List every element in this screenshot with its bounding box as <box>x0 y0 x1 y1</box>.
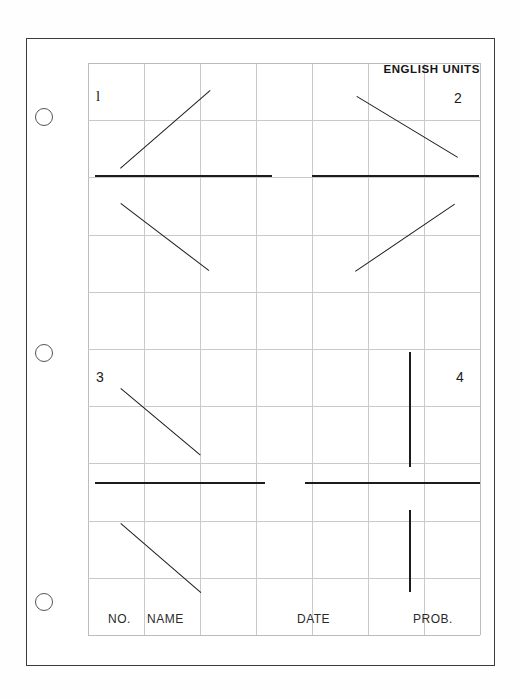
stroke-q3-upper <box>120 388 201 456</box>
quadrant-number-3: 3 <box>96 370 104 384</box>
stroke-q1-upper <box>120 90 211 169</box>
axis-line-q2 <box>312 175 479 177</box>
stroke-q4-upper <box>409 352 411 467</box>
grid-line-horizontal <box>88 120 480 121</box>
stroke-q2-upper <box>356 96 458 158</box>
stroke-q2-lower <box>355 204 455 272</box>
grid-line-horizontal <box>88 235 480 236</box>
stroke-q4-lower <box>409 510 411 592</box>
punch-hole-top <box>35 108 53 126</box>
quadrant-number-2: 2 <box>454 91 462 105</box>
stroke-q3-lower <box>120 523 201 593</box>
quadrant-number-1: l <box>96 89 100 104</box>
grid-line-horizontal <box>88 406 480 407</box>
grid-line-horizontal <box>88 292 480 293</box>
punch-hole-bottom <box>35 593 53 611</box>
field-prob: PROB. <box>413 612 453 626</box>
axis-line-q3 <box>95 482 265 484</box>
field-no: NO. <box>108 612 131 626</box>
stroke-q1-lower <box>120 203 209 271</box>
page-title-english-units: ENGLISH UNITS <box>383 63 480 75</box>
grid-line-horizontal <box>88 635 480 636</box>
field-name: NAME <box>147 612 184 626</box>
punch-hole-middle <box>35 344 53 362</box>
grid-line-horizontal <box>88 521 480 522</box>
axis-line-q1 <box>95 175 272 177</box>
grid-line-horizontal <box>88 578 480 579</box>
grid-line-vertical <box>480 63 481 635</box>
axis-line-q4 <box>305 482 480 484</box>
grid-line-horizontal <box>88 177 480 178</box>
graph-grid-area: ENGLISH UNITS l234 NO.NAMEDATEPROB. <box>88 63 480 635</box>
quadrant-number-4: 4 <box>456 370 464 384</box>
field-date: DATE <box>297 612 330 626</box>
grid-line-horizontal <box>88 349 480 350</box>
scanned-page: ENGLISH UNITS l234 NO.NAMEDATEPROB. <box>0 0 521 698</box>
grid-line-horizontal <box>88 463 480 464</box>
